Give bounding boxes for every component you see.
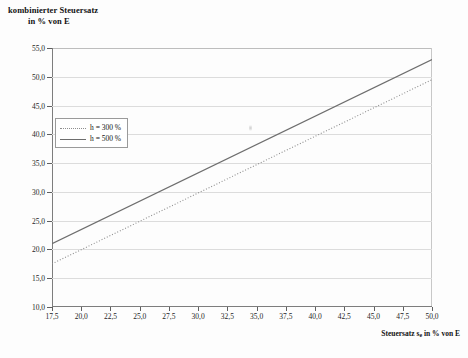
x-axis-tick-label: 35,0 (250, 312, 263, 321)
x-axis-tick-label: 32,5 (221, 312, 234, 321)
series-layer (52, 48, 432, 307)
y-axis-tick-label: 45,0 (32, 101, 45, 110)
y-axis-tick-label: 15,0 (32, 274, 45, 283)
x-axis-tick-label: 50,0 (425, 312, 438, 321)
x-axis-tick-label: 47,5 (396, 312, 409, 321)
x-axis-title: Steuersatz se in % von E (381, 329, 460, 338)
chart-title-line-1: kombinierter Steuersatz (8, 5, 98, 15)
x-axis-title-tail: in % von E (422, 329, 460, 338)
chart-legend: h = 300 % h = 500 % (55, 118, 128, 148)
x-axis-tick-label: 40,0 (309, 312, 322, 321)
chart-figure: kombinierter Steuersatz in % von E 10,01… (0, 0, 468, 358)
series-line-h-500- (52, 60, 432, 244)
legend-swatch-solid-line (60, 135, 86, 143)
y-axis-tick-label: 35,0 (32, 159, 45, 168)
x-axis-tick-label: 20,0 (75, 312, 88, 321)
plot-area: 10,015,020,025,030,035,040,045,050,055,0… (52, 48, 432, 307)
x-axis-tick-label: 30,0 (192, 312, 205, 321)
x-axis-tick-label: 22,5 (104, 312, 117, 321)
y-axis-tick-label: 30,0 (32, 187, 45, 196)
x-axis-tick-label: 27,5 (162, 312, 175, 321)
y-axis-tick-label: 50,0 (32, 72, 45, 81)
y-axis-tick-label: 20,0 (32, 245, 45, 254)
scan-artifact (249, 124, 252, 132)
x-axis-tick-label: 37,5 (279, 312, 292, 321)
x-axis-tick (198, 307, 199, 311)
chart-title-line-2: in % von E (28, 16, 70, 26)
x-axis-tick-label: 17,5 (45, 312, 58, 321)
y-axis-tick-label: 55,0 (32, 44, 45, 53)
series-line-h-300- (52, 80, 432, 264)
x-axis-tick (403, 307, 404, 311)
x-axis-tick (227, 307, 228, 311)
series-svg (52, 48, 432, 307)
legend-item-h300: h = 300 % (60, 122, 121, 133)
x-axis-tick (52, 307, 53, 311)
x-axis-tick (315, 307, 316, 311)
y-axis-tick-label: 40,0 (32, 130, 45, 139)
x-axis-tick (344, 307, 345, 311)
legend-label-h500: h = 500 % (90, 134, 121, 143)
x-axis-tick (140, 307, 141, 311)
x-axis-tick (110, 307, 111, 311)
x-axis-tick (374, 307, 375, 311)
x-axis-title-main: Steuersatz s (381, 329, 419, 338)
x-axis-tick-label: 42,5 (338, 312, 351, 321)
y-axis-tick-label: 10,0 (32, 303, 45, 312)
y-axis-tick-label: 25,0 (32, 216, 45, 225)
legend-swatch-dotted-line (60, 124, 86, 132)
x-axis-tick (169, 307, 170, 311)
x-axis-tick (286, 307, 287, 311)
x-axis-tick (432, 307, 433, 311)
x-axis-tick (257, 307, 258, 311)
legend-label-h300: h = 300 % (90, 123, 121, 132)
x-axis-tick-label: 25,0 (133, 312, 146, 321)
x-axis-tick-label: 45,0 (367, 312, 380, 321)
x-axis-tick (81, 307, 82, 311)
legend-item-h500: h = 500 % (60, 133, 121, 144)
